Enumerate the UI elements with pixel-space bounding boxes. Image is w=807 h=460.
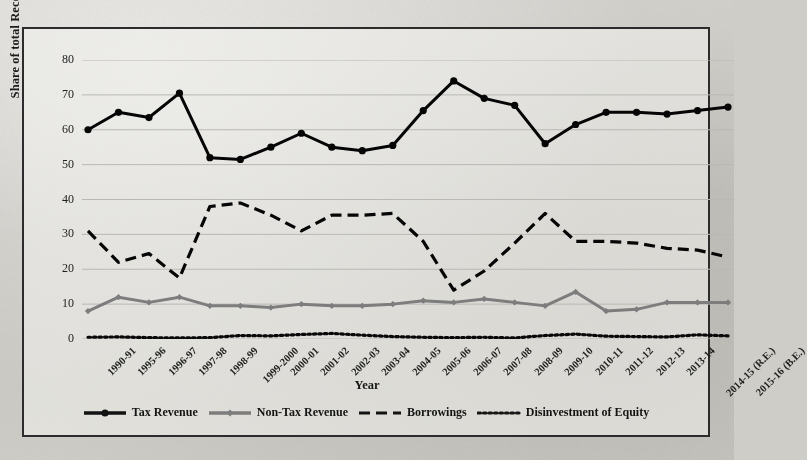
data-point-1-18 [633,306,639,312]
series-line-1 [88,292,728,311]
x-tick-9: 2003-04 [380,345,413,378]
data-point-0-9 [359,147,366,154]
data-point-1-6 [268,304,274,310]
x-tick-13: 2007-08 [501,345,534,378]
legend-label-1: Non-Tax Revenue [257,405,348,420]
x-tick-14: 2008-09 [532,345,565,378]
plot-area [82,60,734,339]
legend-item-3[interactable]: Disinvestment of Equity [477,405,649,420]
data-point-0-21 [724,103,731,110]
data-point-0-18 [633,109,640,116]
chart-frame: Share of total Receipts (in %) 010203040… [22,27,710,437]
series-layer [84,77,731,338]
data-point-0-0 [84,126,91,133]
x-axis-title: Year [0,378,734,393]
y-tick-40: 40 [48,192,74,207]
series-line-2 [88,203,728,290]
x-tick-12: 2006-07 [471,345,504,378]
data-point-0-10 [389,142,396,149]
data-point-0-14 [511,102,518,109]
data-point-0-20 [694,107,701,114]
x-tick-8: 2002-03 [349,345,382,378]
y-tick-10: 10 [48,296,74,311]
data-point-1-13 [481,296,487,302]
y-tick-30: 30 [48,226,74,241]
legend-item-2[interactable]: Borrowings [358,405,467,420]
x-tick-11: 2005-06 [440,345,473,378]
x-tick-7: 2001-02 [319,345,352,378]
y-axis-title: Share of total Receipts (in %) [8,0,23,113]
y-tick-80: 80 [48,52,74,67]
x-tick-0: 1990-91 [105,345,138,378]
data-point-0-1 [115,109,122,116]
x-tick-17: 2011-12 [623,345,655,377]
legend-label-3: Disinvestment of Equity [526,405,649,420]
legend-label-2: Borrowings [407,405,467,420]
y-tick-50: 50 [48,157,74,172]
y-tick-70: 70 [48,87,74,102]
y-tick-60: 60 [48,122,74,137]
y-tick-20: 20 [48,261,74,276]
data-point-1-3 [176,294,182,300]
legend-key-icon [358,407,402,419]
data-point-0-6 [267,144,274,151]
x-tick-1: 1995-96 [136,345,169,378]
data-point-0-8 [328,144,335,151]
data-point-0-17 [602,109,609,116]
legend-key-icon [477,407,521,419]
chart-legend: Tax RevenueNon-Tax RevenueBorrowingsDisi… [22,405,710,420]
data-point-0-12 [450,77,457,84]
data-point-1-7 [298,301,304,307]
legend-item-1[interactable]: Non-Tax Revenue [208,405,348,420]
x-tick-10: 2004-05 [410,345,443,378]
data-point-0-16 [572,121,579,128]
legend-label-0: Tax Revenue [132,405,198,420]
data-point-0-3 [176,90,183,97]
data-point-0-2 [145,114,152,121]
data-point-0-19 [663,110,670,117]
data-point-0-13 [481,95,488,102]
data-point-1-11 [420,297,426,303]
data-point-0-5 [237,156,244,163]
y-tick-0: 0 [48,331,74,346]
data-point-0-11 [420,107,427,114]
x-tick-2: 1996-97 [166,345,199,378]
x-tick-18: 2012-13 [654,345,687,378]
data-point-0-7 [298,130,305,137]
x-tick-4: 1998-99 [227,345,260,378]
x-tick-15: 2009-10 [562,345,595,378]
legend-item-0[interactable]: Tax Revenue [83,405,198,420]
series-line-3 [88,333,728,338]
x-tick-3: 1997-98 [197,345,230,378]
x-tick-16: 2010-11 [593,345,625,377]
legend-key-icon [83,407,127,419]
data-point-0-4 [206,154,213,161]
data-point-0-15 [542,140,549,147]
chart-svg [82,60,734,339]
legend-key-icon [208,407,252,419]
data-point-1-10 [390,301,396,307]
series-line-0 [88,81,728,159]
